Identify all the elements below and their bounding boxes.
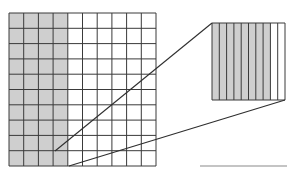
connector-line [69,100,285,166]
magnified-cell [212,23,285,100]
connector-line [55,23,212,151]
hundred-grid [9,13,156,166]
decimal-grid-diagram [0,0,301,179]
